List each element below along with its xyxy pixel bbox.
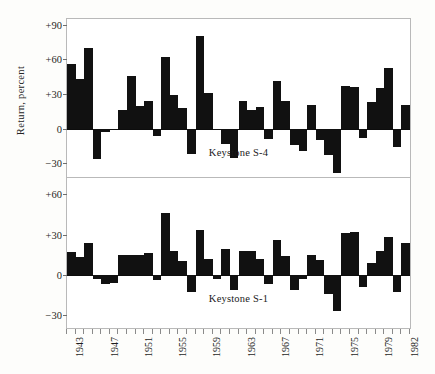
- bar: [170, 95, 179, 129]
- x-axis-tick-label: 1943: [74, 337, 85, 357]
- bar: [281, 101, 290, 129]
- bar: [76, 257, 85, 274]
- x-axis-tick-mark: [255, 329, 256, 334]
- x-axis-tick-mark: [383, 329, 384, 334]
- bar: [213, 129, 222, 130]
- x-axis-tick-mark: [272, 329, 273, 334]
- bar: [359, 129, 368, 138]
- bar: [247, 110, 256, 128]
- bar: [84, 48, 93, 129]
- x-axis-tick-mark: [246, 329, 247, 334]
- y-axis-tick-label: +90: [46, 19, 62, 30]
- x-axis-tick-mark: [75, 329, 76, 334]
- bar: [273, 240, 282, 275]
- bar: [256, 107, 265, 129]
- y-axis-tick-mark: [63, 59, 67, 60]
- x-axis-tick-mark: [220, 329, 221, 334]
- bar: [118, 110, 127, 128]
- bar: [401, 243, 410, 275]
- x-axis-tick-mark: [177, 329, 178, 334]
- bar: [170, 251, 179, 275]
- figure-container: Return, percent Keystone S-4 −300+30+60+…: [0, 0, 435, 374]
- bar: [153, 275, 162, 280]
- x-axis-tick-mark: [298, 329, 299, 334]
- bar: [110, 275, 119, 283]
- bar: [136, 255, 145, 275]
- x-axis-tick-mark: [135, 329, 136, 334]
- bar: [110, 129, 119, 130]
- bar: [307, 255, 316, 275]
- y-axis-tick-mark: [63, 235, 67, 236]
- bar: [84, 243, 93, 275]
- x-axis-tick-label: 1975: [349, 337, 360, 357]
- bar: [350, 232, 359, 275]
- bar: [196, 36, 205, 128]
- bar: [187, 275, 196, 292]
- bar: [367, 263, 376, 275]
- bar: [324, 275, 333, 294]
- bar: [367, 102, 376, 129]
- x-axis-tick-mark: [126, 329, 127, 334]
- x-axis-tick-label: 1959: [211, 337, 222, 357]
- bar: [393, 129, 402, 147]
- y-axis-tick-label: 0: [57, 123, 62, 134]
- y-axis-tick-label: +60: [46, 189, 62, 200]
- x-axis-tick-mark: [152, 329, 153, 334]
- bar: [256, 259, 265, 275]
- chart-panel-keystone-s4: Keystone S-4 −300+30+60+90: [66, 18, 411, 177]
- plot-area-bottom: [67, 178, 410, 328]
- x-axis-tick-mark: [315, 329, 316, 334]
- x-axis-tick-label: 1947: [109, 337, 120, 357]
- bar: [161, 57, 170, 129]
- x-axis-tick-label: 1955: [177, 337, 188, 357]
- x-axis-tick-mark: [117, 329, 118, 334]
- x-axis-tick-mark: [238, 329, 239, 334]
- x-axis-tick-label: 1951: [143, 337, 154, 357]
- x-axis-tick-mark: [203, 329, 204, 334]
- x-axis-tick-mark: [212, 329, 213, 334]
- x-axis-tick-mark: [169, 329, 170, 334]
- bar: [299, 275, 308, 279]
- x-axis-tick-mark: [332, 329, 333, 334]
- bar: [101, 129, 110, 132]
- x-axis-tick-label: 1963: [246, 337, 257, 357]
- y-axis-tick-mark: [63, 315, 67, 316]
- y-axis-tick-label: −30: [46, 158, 62, 169]
- bar: [178, 108, 187, 129]
- bar: [67, 252, 76, 275]
- x-axis-tick-mark: [186, 329, 187, 334]
- y-axis-tick-mark: [63, 94, 67, 95]
- bar: [376, 88, 385, 128]
- bar: [76, 79, 85, 129]
- bar: [213, 275, 222, 279]
- panel-caption-s1: Keystone S-1: [67, 293, 410, 304]
- y-axis-tick-label: +30: [46, 89, 62, 100]
- bar: [264, 275, 273, 284]
- bar: [316, 129, 325, 141]
- x-axis-tick-mark: [280, 329, 281, 334]
- x-axis-tick-mark: [109, 329, 110, 334]
- bar: [264, 129, 273, 139]
- y-axis-tick-label: +30: [46, 229, 62, 240]
- bar: [393, 275, 402, 292]
- bar: [204, 259, 213, 275]
- x-axis-tick-mark: [66, 329, 67, 334]
- bar: [221, 249, 230, 275]
- x-axis-tick-mark: [263, 329, 264, 334]
- bar: [273, 81, 282, 128]
- x-axis-tick-label: 1979: [383, 337, 394, 357]
- chart-panel-keystone-s1: Keystone S-1 −300+30+60: [66, 177, 411, 329]
- y-axis-tick-mark: [63, 25, 67, 26]
- x-axis-tick-mark: [143, 329, 144, 334]
- x-axis-tick-mark: [409, 329, 410, 334]
- x-axis-tick-label: 1971: [314, 337, 325, 357]
- bar: [196, 230, 205, 274]
- x-axis-tick-mark: [160, 329, 161, 334]
- bar: [178, 261, 187, 274]
- bar: [144, 253, 153, 275]
- bar: [136, 106, 145, 129]
- panel-caption-s4: Keystone S-4: [67, 147, 410, 158]
- y-axis-tick-mark: [63, 194, 67, 195]
- bar: [127, 76, 136, 129]
- bar: [290, 129, 299, 145]
